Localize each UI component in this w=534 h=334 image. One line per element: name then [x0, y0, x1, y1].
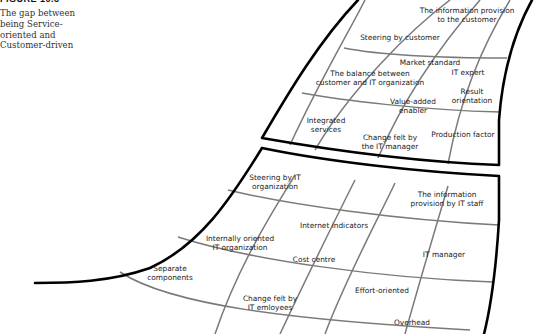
label-steering-customer: Steering by customer	[360, 33, 440, 42]
label-internet-indicators: Internet indicators	[300, 221, 368, 230]
label-market-standard: Market standard	[400, 58, 461, 67]
label-change-it-employees: Change felt by IT emloyees	[243, 294, 297, 313]
label-cost-centre: Cost centre	[293, 255, 335, 264]
label-it-manager: IT manager	[423, 250, 465, 259]
label-overhead: Overhead	[394, 318, 430, 327]
label-info-customer: The information provision to the custome…	[420, 6, 515, 25]
gap-diagram	[0, 0, 534, 334]
label-info-it-staff: The information provision by IT staff	[411, 190, 484, 209]
label-it-expert: IT expert	[451, 68, 484, 77]
label-value-added: Value-added enabler	[390, 97, 436, 116]
label-production-factor: Production factor	[431, 130, 494, 139]
label-balance: The balance between customer and IT orga…	[316, 69, 424, 88]
label-internally-oriented: Internally oriented IT organization	[206, 234, 274, 253]
label-result-orientation: Result orientation	[452, 87, 492, 106]
lower-grid-v3	[325, 183, 395, 334]
label-integrated-services: Integrated services	[307, 116, 346, 135]
label-effort-oriented: Effort-oriented	[355, 286, 409, 295]
label-separate-components: Separate components	[147, 264, 193, 283]
lower-outline-left	[35, 148, 262, 283]
label-change-it-manager: Change felt by the IT manager	[362, 133, 419, 152]
label-steering-it: Steering by IT organization	[249, 173, 301, 192]
